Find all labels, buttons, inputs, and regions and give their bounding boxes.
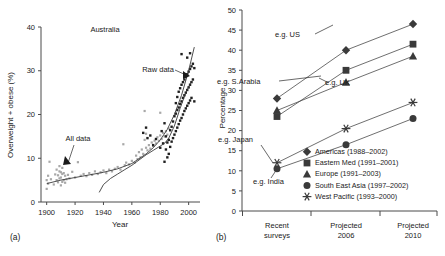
data-point-all xyxy=(46,179,48,181)
data-point-raw xyxy=(180,53,182,55)
data-point-all xyxy=(159,112,161,114)
data-point-raw xyxy=(165,148,167,150)
annotation-raw-data: Raw data xyxy=(142,65,175,74)
legend-marker-triangle xyxy=(303,170,311,178)
data-point-all xyxy=(105,172,107,174)
panel-a-x-ticks: 190019201940196019802000 xyxy=(38,202,197,217)
svg-text:1920: 1920 xyxy=(67,208,84,217)
data-point-all xyxy=(56,169,58,171)
data-point-raw xyxy=(180,117,182,119)
svg-text:5: 5 xyxy=(232,187,236,196)
data-point-raw xyxy=(168,153,170,155)
data-point-all xyxy=(146,149,148,151)
annotation-eg-us-label: e.g. US xyxy=(275,30,300,39)
svg-text:30: 30 xyxy=(27,66,35,75)
svg-text:1960: 1960 xyxy=(124,208,141,217)
data-point-all xyxy=(145,133,147,135)
data-point-all xyxy=(135,155,137,157)
data-point-raw xyxy=(183,110,185,112)
svg-text:50: 50 xyxy=(228,6,236,15)
series-marker-asterisk xyxy=(342,125,351,133)
svg-text:40: 40 xyxy=(27,23,35,32)
data-point-all xyxy=(141,148,143,150)
data-point-all xyxy=(61,167,63,169)
panel-a-x-axis-title: Year xyxy=(112,220,129,229)
data-point-raw xyxy=(178,106,180,108)
data-point-raw xyxy=(187,102,189,104)
annotation-all-data-leader xyxy=(68,145,74,163)
annotation-eg-us-leader xyxy=(315,25,333,34)
annotation-eg-us: e.g. US xyxy=(275,25,333,39)
data-point-raw xyxy=(155,138,157,140)
annotation-eg-japan-leader xyxy=(261,145,273,163)
series-marker-square xyxy=(410,41,417,48)
data-point-all xyxy=(122,143,124,145)
data-point-raw xyxy=(163,161,165,163)
data-point-all xyxy=(60,184,62,186)
data-point-raw xyxy=(182,81,184,83)
panel-b-x-ticks: RecentsurveysProjected2006Projected2010 xyxy=(243,211,438,240)
data-point-raw xyxy=(193,100,195,102)
data-point-raw xyxy=(176,96,178,98)
svg-text:40: 40 xyxy=(228,46,236,55)
data-point-raw xyxy=(160,130,162,132)
data-point-all xyxy=(64,175,66,177)
annotation-eg-india: e.g. India xyxy=(253,172,285,186)
data-point-all xyxy=(88,172,90,174)
data-point-raw xyxy=(179,87,181,89)
legend-marker-asterisk xyxy=(303,193,312,201)
data-point-raw xyxy=(170,140,172,142)
data-point-raw xyxy=(173,133,175,135)
data-point-all xyxy=(57,181,59,183)
panel-a-label: (a) xyxy=(10,232,21,242)
panel-b-category-label: Projected xyxy=(397,221,429,230)
panel-b-label: (b) xyxy=(216,232,227,242)
data-point-all xyxy=(102,169,104,171)
panel-b-y-ticks: 05101520253035404550 xyxy=(228,6,242,216)
data-point-all xyxy=(60,176,62,178)
data-point-raw xyxy=(189,52,191,54)
svg-text:0: 0 xyxy=(232,207,236,216)
data-point-all xyxy=(67,174,69,176)
panel-a-y-axis-title: Overweight + obese (%) xyxy=(6,72,15,158)
data-point-raw xyxy=(146,137,148,139)
svg-text:15: 15 xyxy=(228,146,236,155)
series-marker-triangle xyxy=(409,52,417,60)
data-point-raw xyxy=(166,156,168,158)
legend-label: South East Asia (1997–2002) xyxy=(315,181,409,190)
panel-b-category-label: surveys xyxy=(264,231,290,240)
data-point-raw xyxy=(166,141,168,143)
legend-label: Americas (1988–2002) xyxy=(315,147,388,156)
data-point-raw xyxy=(186,105,188,107)
data-point-all xyxy=(50,178,52,180)
svg-text:1940: 1940 xyxy=(95,208,112,217)
annotation-eg-japan-label: e.g. Japan xyxy=(218,135,253,144)
data-point-raw xyxy=(175,102,177,104)
data-point-all xyxy=(94,170,96,172)
data-point-all xyxy=(117,166,119,168)
annotation-eg-japan: e.g. Japan xyxy=(218,135,273,163)
data-point-raw xyxy=(185,107,187,109)
svg-text:1980: 1980 xyxy=(152,208,169,217)
data-point-all xyxy=(57,174,59,176)
data-point-raw xyxy=(178,123,180,125)
svg-text:0: 0 xyxy=(31,198,35,207)
data-point-all xyxy=(71,171,73,173)
panel-a-svg: 010203040 190019201940196019802000 Overw… xyxy=(0,0,215,256)
data-point-all xyxy=(148,144,150,146)
svg-text:25: 25 xyxy=(228,106,236,115)
data-point-raw xyxy=(152,144,154,146)
data-point-raw xyxy=(145,126,147,128)
panel-b-legend: Americas (1988–2002)Eastern Med (1991–20… xyxy=(303,147,409,201)
series-marker-circle xyxy=(410,115,417,122)
panel-b-category-label: Recent xyxy=(265,221,290,230)
svg-text:35: 35 xyxy=(228,66,236,75)
svg-text:2000: 2000 xyxy=(180,208,197,217)
annotation-eg-uk-label: e.g. UK xyxy=(325,78,350,87)
data-point-all xyxy=(144,110,146,112)
data-point-all xyxy=(125,162,127,164)
legend-label: Eastern Med (1991–2001) xyxy=(315,158,399,167)
annotation-eg-sarabia-leader xyxy=(279,76,321,81)
annotation-eg-india-label: e.g. India xyxy=(253,177,285,186)
data-point-all xyxy=(82,173,84,175)
